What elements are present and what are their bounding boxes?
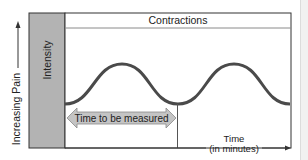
y-axis-arrow (16, 21, 21, 68)
contraction-timing-diagram: Increasing Pain Intensity Contractions T… (0, 0, 308, 160)
x-axis-label-units: (in minutes) (209, 143, 259, 154)
contractions-header: Contractions (149, 14, 208, 26)
measure-label: Time to be measured (74, 113, 168, 124)
y-axis-label: Increasing Pain (10, 73, 22, 146)
intensity-label: Intensity (41, 40, 53, 80)
